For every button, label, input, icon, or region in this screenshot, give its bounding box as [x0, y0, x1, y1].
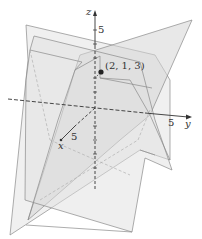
y-tick-label: 5 — [168, 117, 174, 128]
z-arrow-icon — [93, 10, 97, 16]
z-axis-label: z — [85, 6, 92, 17]
x-axis-label: x — [58, 140, 64, 151]
x-tick-label: 5 — [71, 131, 77, 142]
diagram: z 5 5 y 5 x (2, 1, 3) — [0, 0, 202, 239]
y-axis-label: y — [184, 118, 191, 129]
point-label: (2, 1, 3) — [105, 60, 145, 71]
z-tick-label: 5 — [98, 24, 104, 35]
planes-figure: z 5 5 y 5 x (2, 1, 3) — [0, 0, 202, 239]
